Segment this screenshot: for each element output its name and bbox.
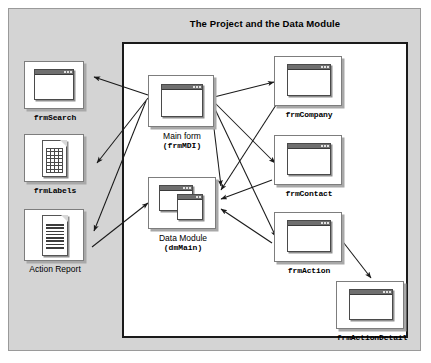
report-text-lines [46,224,64,252]
node-frmcontact[interactable]: frmContact [274,135,346,185]
window-controls-icon [196,196,201,199]
window-form-icon [161,84,203,117]
frmmdi-card [148,75,214,127]
frmactiondetail-label: frmActionDetail [337,333,408,342]
frmmdi-label-line1: Main form [163,131,201,141]
frmcompany-card [274,56,342,106]
dmmain-label-line2: (dmMain) [159,243,207,252]
page-fold-corner [60,140,67,147]
node-frmlabels[interactable]: frmLabels [24,134,88,182]
window-body [162,90,202,116]
window-body [35,75,73,99]
window-controls-icon [64,71,72,74]
node-dmmain[interactable]: Data Module (dmMain) [148,177,220,229]
node-frmsearch[interactable]: frmSearch [24,61,88,109]
window-form-icon [287,64,331,96]
frmactiondetail-card [336,281,404,329]
dmmain-label-line1: Data Module [159,233,207,243]
window-controls-icon [321,222,329,225]
window-body [288,226,330,251]
frmsearch-card [24,61,84,109]
window-form-icon [287,143,331,175]
node-frmaction[interactable]: frmAction [274,212,346,262]
figure-title: The Project and the Data Module [122,18,408,29]
frmcontact-card [274,135,342,185]
window-form-icon [287,220,331,252]
window-form-icon [349,289,393,320]
text-report-icon [42,215,68,256]
frmlabels-label: frmLabels [34,186,76,195]
node-frmmdi[interactable]: Main form (frmMDI) [148,75,218,127]
window-body [350,295,392,319]
page-fold-corner [61,215,68,222]
frmsearch-label: frmSearch [34,113,76,122]
window-controls-icon [183,187,191,190]
report-grid [46,148,63,173]
window-controls-icon [321,145,329,148]
action-report-card [24,209,84,261]
node-frmcompany[interactable]: frmCompany [274,56,346,106]
window-controls-icon [193,86,201,89]
frmaction-card [274,212,342,262]
window-controls-icon [383,291,391,294]
frmcompany-label: frmCompany [285,110,332,119]
window-form-secondary-icon [177,194,203,220]
frmlabels-card [24,134,84,182]
node-action-report[interactable]: Action Report [24,209,88,261]
action-report-label: Action Report [29,264,81,274]
window-form-icon [34,69,74,100]
frmmdi-label: Main form (frmMDI) [163,131,201,150]
window-body [178,200,202,219]
frmmdi-label-line2: (frmMDI) [163,141,201,150]
figure-the-project-and-the-data-module: The Project and the Data Module [0,0,431,363]
dmmain-label: Data Module (dmMain) [159,233,207,252]
grid-report-icon [42,140,67,177]
node-frmactiondetail[interactable]: frmActionDetail [336,281,408,329]
window-body [288,149,330,174]
dmmain-card [148,177,216,229]
window-controls-icon [321,66,329,69]
window-body [288,70,330,95]
frmaction-label: frmAction [288,266,330,275]
frmcontact-label: frmContact [285,189,332,198]
